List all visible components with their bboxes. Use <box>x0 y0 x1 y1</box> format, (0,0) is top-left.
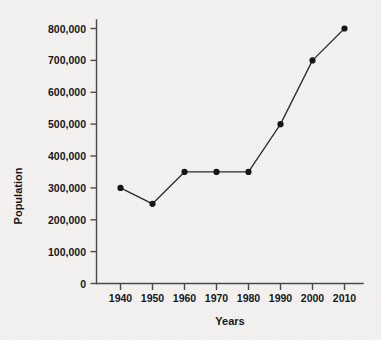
y-tick-label-100000: 100,000 <box>48 246 86 258</box>
x-axis-title: Years <box>215 315 244 327</box>
data-point-2000 <box>309 57 315 63</box>
x-axis-ticks <box>121 284 345 291</box>
data-point-1950 <box>149 201 155 207</box>
y-axis-tick-labels: 800,000 700,000 600,000 500,000 400,000 … <box>48 23 86 290</box>
y-tick-label-600000: 600,000 <box>48 86 86 98</box>
x-tick-label-1960: 1960 <box>173 292 197 304</box>
y-tick-label-800000: 800,000 <box>48 23 86 35</box>
y-tick-label-200000: 200,000 <box>48 214 86 226</box>
x-tick-label-2010: 2010 <box>333 292 357 304</box>
x-tick-label-1950: 1950 <box>141 292 165 304</box>
y-tick-label-300000: 300,000 <box>48 182 86 194</box>
data-point-1940 <box>117 185 123 191</box>
x-tick-label-1980: 1980 <box>237 292 261 304</box>
population-series-line <box>121 29 345 204</box>
population-line-chart: 800,000 700,000 600,000 500,000 400,000 … <box>0 0 381 340</box>
chart-plot-area: 800,000 700,000 600,000 500,000 400,000 … <box>0 0 381 340</box>
x-tick-label-1940: 1940 <box>109 292 133 304</box>
y-tick-label-0: 0 <box>80 278 86 290</box>
population-series-markers <box>117 25 347 207</box>
x-tick-label-1990: 1990 <box>269 292 293 304</box>
data-point-2010 <box>341 25 347 31</box>
data-point-1960 <box>181 169 187 175</box>
x-tick-label-2000: 2000 <box>301 292 325 304</box>
y-tick-label-500000: 500,000 <box>48 118 86 130</box>
y-tick-label-700000: 700,000 <box>48 54 86 66</box>
data-point-1990 <box>277 121 283 127</box>
y-axis-ticks <box>91 29 97 284</box>
x-axis-tick-labels: 1940 1950 1960 1970 1980 1990 2000 2010 <box>109 292 357 304</box>
x-tick-label-1970: 1970 <box>205 292 229 304</box>
data-point-1970 <box>213 169 219 175</box>
y-tick-label-400000: 400,000 <box>48 150 86 162</box>
data-point-1980 <box>245 169 251 175</box>
y-axis-title: Population <box>12 167 24 224</box>
